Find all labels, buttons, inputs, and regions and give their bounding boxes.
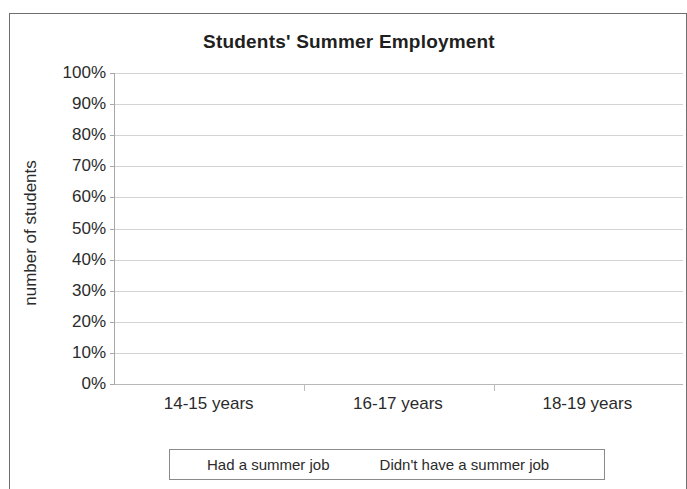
gridline xyxy=(115,353,683,354)
y-axis-tick xyxy=(110,322,115,323)
y-axis-tick-label: 0% xyxy=(81,374,106,394)
y-axis-tick xyxy=(110,384,115,385)
gridline xyxy=(115,73,683,74)
legend-entry-label: Didn't have a summer job xyxy=(380,456,550,473)
y-axis-tick-label: 20% xyxy=(72,312,106,332)
gridline xyxy=(115,322,683,323)
x-axis-labels: 14-15 years16-17 years18-19 years xyxy=(114,394,682,414)
y-axis-tick xyxy=(110,229,115,230)
y-axis-tick xyxy=(110,104,115,105)
gridline xyxy=(115,229,683,230)
y-axis-tick-label: 90% xyxy=(72,94,106,114)
y-axis-tick xyxy=(110,197,115,198)
gridline xyxy=(115,104,683,105)
x-axis-tick xyxy=(304,384,305,391)
gridline xyxy=(115,197,683,198)
gridline xyxy=(115,135,683,136)
y-axis-tick xyxy=(110,353,115,354)
y-axis-tick-label: 60% xyxy=(72,187,106,207)
x-axis-category-label-2: 18-19 years xyxy=(493,394,682,414)
legend-entry-0[interactable]: Had a summer job xyxy=(207,456,330,473)
y-axis-tick-label: 50% xyxy=(72,219,106,239)
gridline xyxy=(115,384,683,385)
legend-entry-1[interactable]: Didn't have a summer job xyxy=(380,456,550,473)
gridline xyxy=(115,291,683,292)
x-axis-tick xyxy=(494,384,495,391)
y-axis-tick xyxy=(110,166,115,167)
chart-legend: Had a summer jobDidn't have a summer job xyxy=(169,449,605,480)
y-axis-tick xyxy=(110,291,115,292)
y-axis-tick-label: 70% xyxy=(72,156,106,176)
y-axis-tick-label: 10% xyxy=(72,343,106,363)
gridline xyxy=(115,260,683,261)
y-axis-tick-label: 40% xyxy=(72,250,106,270)
y-axis-tick xyxy=(110,135,115,136)
x-axis-category-label-1: 16-17 years xyxy=(303,394,492,414)
y-axis-tick xyxy=(110,73,115,74)
legend-entry-label: Had a summer job xyxy=(207,456,330,473)
gridline xyxy=(115,166,683,167)
y-axis-tick-label: 100% xyxy=(63,63,106,83)
y-axis-tick-label: 30% xyxy=(72,281,106,301)
chart-title: Students' Summer Employment xyxy=(10,31,687,53)
x-axis-category-label-0: 14-15 years xyxy=(114,394,303,414)
y-axis-tick-label: 80% xyxy=(72,125,106,145)
y-axis-tick xyxy=(110,260,115,261)
chart-frame: Students' Summer Employment number of st… xyxy=(9,13,687,489)
plot-area: 100%90%80%70%60%50%40%30%20%10%0% xyxy=(114,73,682,384)
y-axis-title: number of students xyxy=(21,123,41,343)
